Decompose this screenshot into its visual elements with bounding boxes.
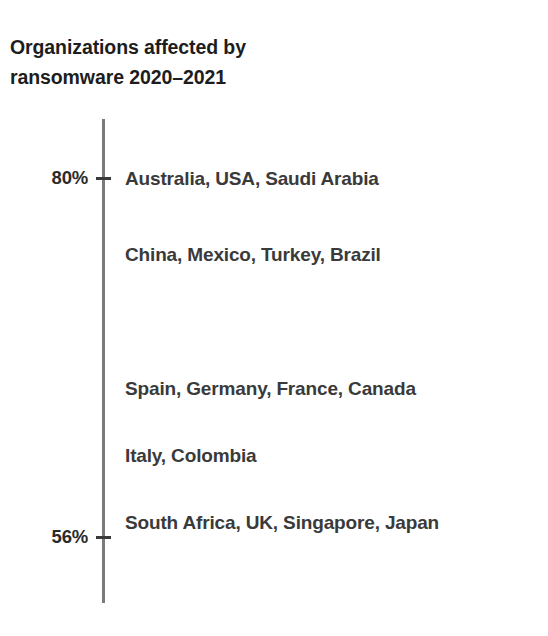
data-label-group-2: China, Mexico, Turkey, Brazil [125, 244, 381, 266]
chart-title: Organizations affected by ransomware 202… [10, 32, 430, 92]
data-label-group-5: South Africa, UK, Singapore, Japan [125, 512, 439, 534]
data-label-group-4: Italy, Colombia [125, 445, 256, 467]
data-label-group-3: Spain, Germany, France, Canada [125, 378, 416, 400]
y-axis-tick-80 [96, 177, 111, 180]
chart-canvas: Organizations affected by ransomware 202… [0, 0, 548, 636]
y-axis-line [102, 119, 105, 603]
y-axis-tick-label-80: 80% [0, 167, 88, 189]
data-label-group-1: Australia, USA, Saudi Arabia [125, 168, 379, 190]
y-axis-tick-56 [96, 536, 111, 539]
y-axis-tick-label-56: 56% [0, 526, 88, 548]
